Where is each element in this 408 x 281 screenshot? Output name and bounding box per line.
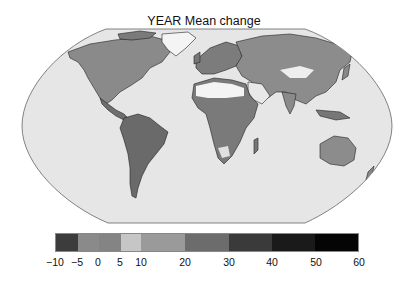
colorbar-segment: [185, 234, 229, 251]
tick-label: 40: [266, 256, 278, 268]
colorbar-tick-labels: −10 −5 0 5 10 20 30 40 50 60: [0, 256, 408, 270]
colorbar-segment: [56, 234, 78, 251]
tick-label: 10: [135, 256, 147, 268]
tick-label: 30: [223, 256, 235, 268]
colorbar-segment: [78, 234, 99, 251]
colorbar-segment: [315, 234, 358, 251]
colorbar: [55, 233, 359, 252]
tick-label: 0: [95, 256, 101, 268]
colorbar-segment: [99, 234, 121, 251]
colorbar-segment: [229, 234, 272, 251]
tick-label: −10: [46, 256, 64, 268]
tick-label: 5: [117, 256, 123, 268]
tick-label: 60: [353, 256, 365, 268]
tick-label: 20: [179, 256, 191, 268]
world-map: [0, 0, 408, 230]
colorbar-segment: [272, 234, 316, 251]
tick-label: −5: [71, 256, 83, 268]
colorbar-segment: [141, 234, 185, 251]
tick-label: 50: [310, 256, 322, 268]
colorbar-segment: [121, 234, 142, 251]
